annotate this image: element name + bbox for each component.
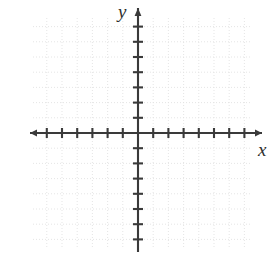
y-axis-label: y bbox=[118, 2, 126, 21]
x-axis-label: x bbox=[258, 140, 266, 159]
axes-layer bbox=[0, 0, 278, 261]
coordinate-plane-figure: y x bbox=[0, 0, 278, 261]
arrow-right-icon bbox=[255, 130, 262, 137]
x-axis bbox=[30, 128, 262, 138]
y-axis bbox=[133, 8, 143, 252]
arrow-left-icon bbox=[30, 130, 37, 137]
arrow-up-icon bbox=[135, 8, 142, 16]
